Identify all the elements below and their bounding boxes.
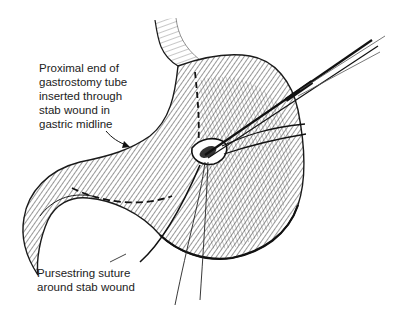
suture-label-line: around stab wound [37,280,135,294]
tube-label-line: inserted through [39,89,127,103]
tube-label: Proximal end of gastrostomy tube inserte… [39,61,127,131]
esophagus [155,18,200,66]
suture-leader-line [110,254,126,262]
label-arrow [106,131,130,148]
tube-label-line: Proximal end of [39,61,127,75]
tube-label-line: stab wound in [39,103,127,117]
tube-label-line: gastrostomy tube [39,75,127,89]
suture-label: Pursestring suture around stab wound [37,266,135,294]
cropped-caption [0,319,393,327]
suture-label-line: Pursestring suture [37,266,135,280]
tube-label-line: gastric midline [39,117,127,131]
